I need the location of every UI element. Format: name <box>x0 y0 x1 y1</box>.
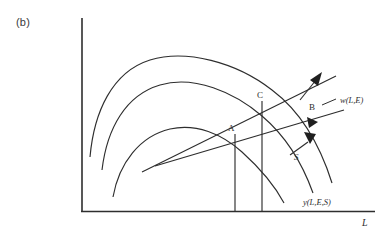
shift-arrows <box>290 72 322 155</box>
output-curve-inner <box>113 127 284 203</box>
axes <box>81 18 375 212</box>
wage-label-leader <box>322 99 336 105</box>
economics-diagram: A B C w(L,E) y(L,E,S) S L <box>0 0 386 232</box>
shift-arrows-label: S <box>294 152 299 162</box>
wage-line-label: w(L,E) <box>340 95 364 105</box>
output-curves <box>90 56 332 203</box>
shift-arrow-top-stem <box>300 80 316 100</box>
output-curve-outer <box>90 56 332 183</box>
shift-arrow-bottom-head <box>304 132 316 144</box>
output-curve-label: y(L,E,S) <box>302 197 331 207</box>
point-label-a: A <box>228 123 235 133</box>
point-label-c: C <box>257 90 263 100</box>
output-curve-middle <box>102 82 313 193</box>
drop-lines <box>235 101 262 211</box>
wage-line-upper <box>142 76 336 172</box>
shift-arrow-bottom-stem <box>290 142 308 155</box>
x-axis-label: L <box>361 217 368 228</box>
point-label-b: B <box>309 102 315 112</box>
